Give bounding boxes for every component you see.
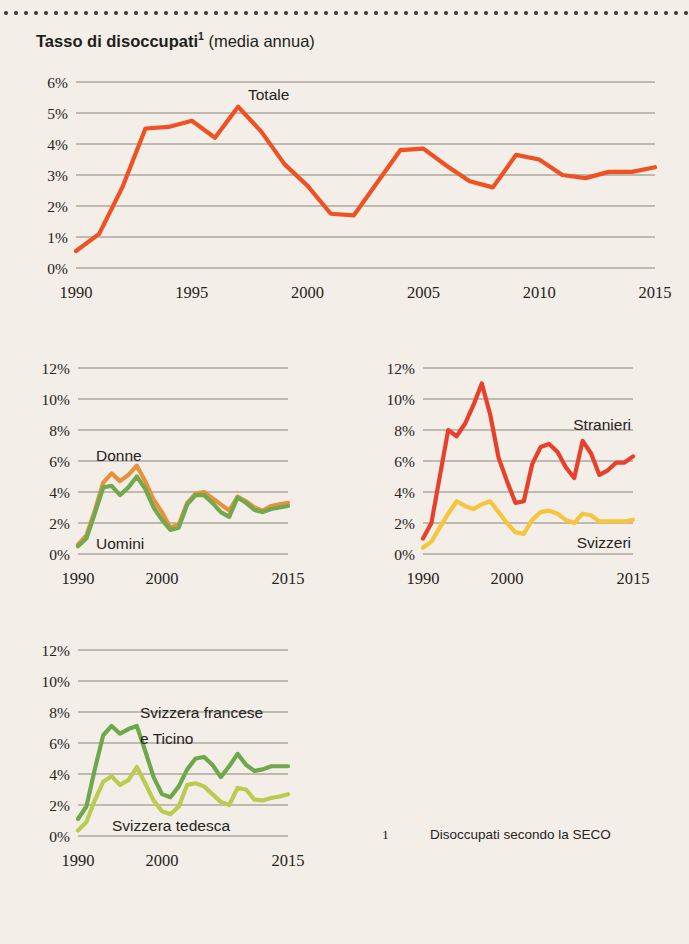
rule-dot [104, 11, 108, 15]
y-axis-tick-label: 6% [49, 453, 70, 470]
page-title: Tasso di disoccupati1 (media annua) [36, 30, 315, 51]
rule-dot [154, 11, 158, 15]
page-title-main: Tasso di disoccupati [36, 32, 198, 50]
rule-dot [54, 11, 58, 15]
rule-dot [324, 11, 328, 15]
y-axis-tick-label: 4% [49, 766, 70, 783]
rule-dot [4, 11, 8, 15]
x-axis-tick-label: 1990 [60, 283, 93, 302]
series-label: e Ticino [140, 730, 193, 747]
rule-dot [114, 11, 118, 15]
rule-dot [134, 11, 138, 15]
x-axis-tick-label: 1995 [175, 283, 208, 302]
rule-dot [434, 11, 438, 15]
rule-dot [574, 11, 578, 15]
rule-dot [74, 11, 78, 15]
rule-dot [404, 11, 408, 15]
y-axis-tick-label: 6% [49, 735, 70, 752]
y-axis-tick-label: 10% [42, 391, 71, 408]
y-axis-tick-label: 10% [387, 391, 416, 408]
y-axis-tick-label: 12% [387, 360, 416, 377]
y-axis-tick-label: 5% [47, 105, 68, 122]
rule-dot [554, 11, 558, 15]
chart-panel-regioni: 12%10%8%6%4%2%0%199020002015Svizzera fra… [0, 634, 330, 884]
y-axis-tick-label: 3% [47, 167, 68, 184]
rule-dot [274, 11, 278, 15]
rule-dot [464, 11, 468, 15]
rule-dot [194, 11, 198, 15]
y-axis-tick-label: 4% [394, 484, 415, 501]
rule-dot [634, 11, 638, 15]
chart-svg-sesso: 12%10%8%6%4%2%0%199020002015DonneUomini [0, 352, 330, 602]
rule-dot [174, 11, 178, 15]
chart-panel-nazionalita: 12%10%8%6%4%2%0%199020002015StranieriSvi… [345, 352, 675, 602]
x-axis-tick-label: 1990 [62, 569, 95, 588]
series-label: Svizzera tedesca [112, 817, 230, 834]
rule-dot [84, 11, 88, 15]
x-axis-tick-label: 2015 [272, 569, 305, 588]
chart-panel-sesso: 12%10%8%6%4%2%0%199020002015DonneUomini [0, 352, 330, 602]
chart-svg-regioni: 12%10%8%6%4%2%0%199020002015Svizzera fra… [0, 634, 330, 884]
rule-dot [344, 11, 348, 15]
y-axis-tick-label: 0% [47, 260, 68, 277]
x-axis-tick-label: 2000 [491, 569, 524, 588]
x-axis-tick-label: 2015 [639, 283, 672, 302]
rule-dot [334, 11, 338, 15]
rule-dot [384, 11, 388, 15]
y-axis-tick-label: 2% [394, 515, 415, 532]
y-axis-tick-label: 2% [47, 198, 68, 215]
rule-dot [644, 11, 648, 15]
x-axis-tick-label: 1990 [407, 569, 440, 588]
rule-dot [164, 11, 168, 15]
x-axis-tick-label: 2000 [291, 283, 324, 302]
rule-dot [544, 11, 548, 15]
series-label: Totale [248, 86, 289, 103]
rule-dot [664, 11, 668, 15]
rule-dot [304, 11, 308, 15]
y-axis-tick-label: 12% [42, 642, 71, 659]
rule-dot [674, 11, 678, 15]
rule-dot [474, 11, 478, 15]
y-axis-tick-label: 6% [47, 74, 68, 91]
chart-svg-totale: 6%5%4%3%2%1%0%199019952000200520102015To… [0, 60, 689, 310]
rule-dot [44, 11, 48, 15]
y-axis-tick-label: 8% [394, 422, 415, 439]
data-series-line [78, 466, 288, 545]
x-axis-tick-label: 2010 [523, 283, 556, 302]
rule-dot [424, 11, 428, 15]
rule-dot [24, 11, 28, 15]
rule-dot [254, 11, 258, 15]
rule-dot [594, 11, 598, 15]
y-axis-tick-label: 10% [42, 673, 71, 690]
rule-dot [504, 11, 508, 15]
rule-dot [374, 11, 378, 15]
y-axis-tick-label: 4% [47, 136, 68, 153]
y-axis-tick-label: 12% [42, 360, 71, 377]
y-axis-tick-label: 0% [49, 828, 70, 845]
page-title-suffix: (media annua) [204, 32, 315, 50]
rule-dot [94, 11, 98, 15]
rule-dot [584, 11, 588, 15]
rule-dot [444, 11, 448, 15]
y-axis-tick-label: 0% [49, 546, 70, 563]
rule-dot [264, 11, 268, 15]
rule-dot [684, 11, 688, 15]
x-axis-tick-label: 2005 [407, 283, 440, 302]
chart-panel-totale: 6%5%4%3%2%1%0%199019952000200520102015To… [0, 60, 689, 310]
series-label: Donne [96, 447, 142, 464]
rule-dot [224, 11, 228, 15]
y-axis-tick-label: 4% [49, 484, 70, 501]
rule-dot [624, 11, 628, 15]
series-label: Svizzera francese [140, 704, 263, 721]
rule-dot [534, 11, 538, 15]
rule-dot [364, 11, 368, 15]
rule-dot [524, 11, 528, 15]
rule-dot [204, 11, 208, 15]
rule-dot [284, 11, 288, 15]
rule-dot [14, 11, 18, 15]
rule-dot [214, 11, 218, 15]
y-axis-tick-label: 0% [394, 546, 415, 563]
y-axis-tick-label: 8% [49, 422, 70, 439]
rule-dot [354, 11, 358, 15]
rule-dot [484, 11, 488, 15]
